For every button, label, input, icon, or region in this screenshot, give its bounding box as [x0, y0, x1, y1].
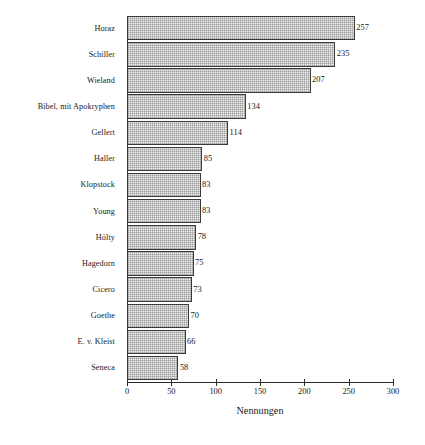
bar — [127, 251, 194, 275]
x-axis-tick — [216, 379, 217, 386]
bar-value-label: 83 — [201, 207, 211, 215]
x-axis-tick-label: 100 — [209, 388, 222, 396]
bar-value-label: 114 — [228, 129, 242, 137]
bar — [127, 199, 201, 223]
bar-row: 73 — [127, 277, 393, 301]
bar-row: 66 — [127, 330, 393, 354]
category-label: Young — [0, 208, 119, 216]
category-axis-labels: HorazSchillerWielandBibel, mit Apokryphe… — [0, 16, 119, 382]
bar-value-label: 73 — [192, 285, 202, 293]
bar — [127, 304, 189, 328]
bar — [127, 277, 192, 301]
bar-chart: HorazSchillerWielandBibel, mit Apokryphe… — [0, 0, 425, 445]
bar — [127, 121, 228, 145]
bar-value-label: 257 — [355, 24, 369, 32]
bar — [127, 68, 311, 92]
category-label: Wieland — [0, 77, 119, 85]
x-axis-tick-label: 300 — [387, 388, 400, 396]
x-axis-tick-label: 50 — [167, 388, 175, 396]
bar-row: 83 — [127, 199, 393, 223]
x-axis-tick-label: 0 — [125, 388, 129, 396]
bar-row: 257 — [127, 16, 393, 40]
category-label: Klopstock — [0, 181, 119, 189]
bar — [127, 225, 196, 249]
bar — [127, 356, 178, 380]
bar-row: 75 — [127, 251, 393, 275]
bar-row: 58 — [127, 356, 393, 380]
bar-row: 78 — [127, 225, 393, 249]
category-label: Horaz — [0, 25, 119, 33]
plot-area: 257235207134114858383787573706658 — [127, 16, 393, 382]
bar-row: 134 — [127, 94, 393, 118]
category-label: Haller — [0, 155, 119, 163]
bar-value-label: 235 — [335, 50, 349, 58]
bar-row: 235 — [127, 42, 393, 66]
x-axis-tick — [127, 379, 128, 386]
x-axis-tick — [349, 379, 350, 386]
bar-value-label: 75 — [194, 259, 204, 267]
category-label: Gellert — [0, 129, 119, 137]
category-label: Goethe — [0, 312, 119, 320]
bar-value-label: 66 — [186, 338, 196, 346]
bar-value-label: 58 — [178, 364, 188, 372]
x-axis-tick — [304, 379, 305, 386]
bar — [127, 147, 202, 171]
x-axis-tick — [393, 379, 394, 386]
bar-value-label: 70 — [189, 312, 199, 320]
bar-row: 85 — [127, 147, 393, 171]
x-axis-line — [127, 382, 393, 383]
category-label: E. v. Kleist — [0, 338, 119, 346]
bar — [127, 16, 355, 40]
bar-value-label: 85 — [202, 155, 212, 163]
category-label: Seneca — [0, 364, 119, 372]
category-label: Hölty — [0, 234, 119, 242]
bar — [127, 330, 186, 354]
bar-row: 83 — [127, 173, 393, 197]
bar-value-label: 134 — [246, 102, 260, 110]
category-label: Hagedorn — [0, 260, 119, 268]
bar-row: 207 — [127, 68, 393, 92]
bar — [127, 94, 246, 118]
bar — [127, 173, 201, 197]
x-axis-tick — [171, 379, 172, 386]
x-axis-tick — [260, 379, 261, 386]
bar-value-label: 83 — [201, 181, 211, 189]
x-axis-tick-label: 200 — [298, 388, 311, 396]
bar-value-label: 78 — [196, 233, 206, 241]
x-axis-tick-label: 250 — [342, 388, 355, 396]
bar-row: 70 — [127, 304, 393, 328]
category-label: Cicero — [0, 286, 119, 294]
bar-row: 114 — [127, 121, 393, 145]
x-axis-title: Nennungen — [127, 406, 393, 416]
bar-value-label: 207 — [311, 76, 325, 84]
x-axis-tick-label: 150 — [254, 388, 267, 396]
category-label: Schiller — [0, 51, 119, 59]
bar — [127, 42, 335, 66]
category-label: Bibel, mit Apokryphen — [0, 103, 119, 111]
